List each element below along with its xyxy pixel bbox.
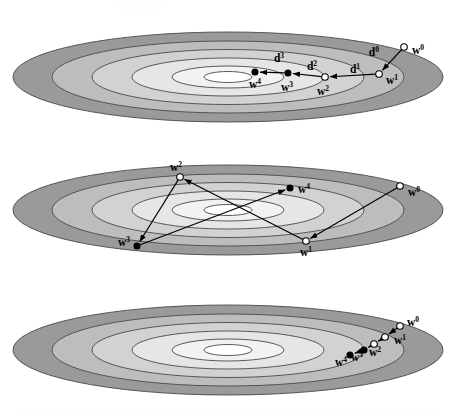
point-marker-w4 bbox=[347, 352, 353, 358]
point-marker-w1 bbox=[376, 71, 383, 78]
panel-1-steepest-descent-zigzag: d0d1d2d3w0w1w2w3w4 bbox=[13, 32, 443, 122]
point-marker-w0 bbox=[401, 44, 408, 51]
point-marker-w2 bbox=[322, 74, 329, 81]
figure-root: d0d1d2d3w0w1w2w3w4w0w1w2w3w4w0w1w2w3w4 bbox=[0, 0, 467, 419]
contour-ring-5 bbox=[204, 345, 252, 356]
contour-ring-5 bbox=[204, 72, 252, 83]
point-marker-w4 bbox=[252, 69, 258, 75]
point-marker-w4 bbox=[287, 185, 293, 191]
panel-3-converging-line-trajectory: w0w1w2w3w4 bbox=[13, 305, 443, 395]
point-marker-w1 bbox=[382, 334, 389, 341]
point-marker-w1 bbox=[303, 238, 310, 245]
panels-layer: d0d1d2d3w0w1w2w3w4w0w1w2w3w4w0w1w2w3w4 bbox=[13, 32, 443, 395]
point-marker-w3 bbox=[134, 243, 140, 249]
seg-w3-w4 bbox=[260, 72, 285, 73]
point-marker-w0 bbox=[397, 183, 404, 190]
point-marker-w2 bbox=[177, 174, 184, 181]
point-marker-w3 bbox=[285, 70, 291, 76]
point-marker-w0 bbox=[397, 323, 404, 330]
figure-canvas: d0d1d2d3w0w1w2w3w4w0w1w2w3w4w0w1w2w3w4 bbox=[0, 0, 467, 419]
